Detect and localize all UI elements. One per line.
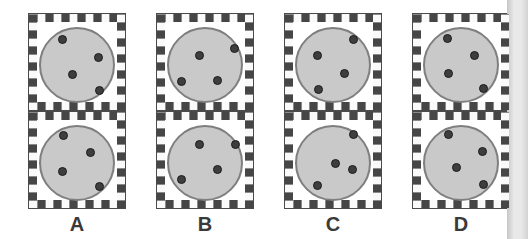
option-label: B xyxy=(198,214,212,234)
page-edge-strip xyxy=(507,0,528,239)
checker-border-bottom xyxy=(157,102,253,110)
dot xyxy=(348,165,357,174)
dot-circle xyxy=(167,27,243,103)
dot xyxy=(313,181,322,190)
dot-circle xyxy=(39,125,115,201)
checker-border-right xyxy=(117,112,125,208)
checker-border-top xyxy=(413,112,509,120)
dot xyxy=(58,167,67,176)
dot xyxy=(349,35,358,44)
dot xyxy=(443,34,452,43)
checker-border-top xyxy=(413,14,509,22)
dot xyxy=(479,180,488,189)
checker-border-right xyxy=(117,14,125,110)
checker-border-left xyxy=(29,112,37,208)
checker-border-top xyxy=(157,112,253,120)
checker-border-top xyxy=(29,14,125,22)
dot xyxy=(95,86,104,95)
dot xyxy=(177,175,186,184)
checker-border-top xyxy=(157,14,253,22)
checker-border-right xyxy=(245,112,253,208)
checker-border-right xyxy=(501,112,509,208)
checker-border-left xyxy=(29,14,37,110)
checker-border-right xyxy=(373,14,381,110)
domino-cell-bottom xyxy=(284,111,382,209)
checker-border-left xyxy=(285,14,293,110)
domino-cell-top xyxy=(28,13,126,111)
dot xyxy=(95,182,104,191)
dot xyxy=(444,69,453,78)
dot xyxy=(314,85,323,94)
dot xyxy=(58,35,67,44)
dot xyxy=(213,165,222,174)
dot xyxy=(331,159,340,168)
option-panel-C[interactable]: C xyxy=(284,13,382,234)
dot-circle xyxy=(295,27,371,103)
checker-border-left xyxy=(413,14,421,110)
dot xyxy=(86,148,95,157)
checker-border-bottom xyxy=(285,102,381,110)
dot xyxy=(195,140,204,149)
checker-border-left xyxy=(157,112,165,208)
checker-border-left xyxy=(413,112,421,208)
dot xyxy=(231,140,240,149)
domino-cell-bottom xyxy=(28,111,126,209)
checker-border-bottom xyxy=(157,200,253,208)
checker-border-bottom xyxy=(285,200,381,208)
dot xyxy=(213,76,222,85)
dot xyxy=(68,70,77,79)
domino-cell-bottom xyxy=(156,111,254,209)
checker-border-left xyxy=(285,112,293,208)
checker-border-bottom xyxy=(29,200,125,208)
dot-circle xyxy=(423,125,499,201)
option-panel-D[interactable]: D xyxy=(412,13,510,234)
checker-border-left xyxy=(157,14,165,110)
dot xyxy=(479,84,488,93)
checker-border-right xyxy=(373,112,381,208)
checker-border-right xyxy=(501,14,509,110)
dot xyxy=(177,77,186,86)
dot xyxy=(313,51,322,60)
checker-border-top xyxy=(29,112,125,120)
option-label: D xyxy=(454,214,468,234)
dot xyxy=(340,69,349,78)
dot xyxy=(230,44,239,53)
dot xyxy=(195,51,204,60)
option-panel-B[interactable]: B xyxy=(156,13,254,234)
figure-canvas: A B xyxy=(0,0,528,239)
checker-border-top xyxy=(285,112,381,120)
option-label: A xyxy=(70,214,84,234)
domino-cell-top xyxy=(412,13,510,111)
dot xyxy=(59,131,68,140)
options-row: A B xyxy=(28,13,510,234)
checker-border-bottom xyxy=(413,200,509,208)
dot xyxy=(349,130,358,139)
dot-circle xyxy=(423,27,499,103)
domino-cell-top xyxy=(284,13,382,111)
checker-border-bottom xyxy=(413,102,509,110)
checker-border-bottom xyxy=(29,102,125,110)
dot xyxy=(452,163,461,172)
domino-cell-top xyxy=(156,13,254,111)
option-panel-A[interactable]: A xyxy=(28,13,126,234)
dot xyxy=(470,51,479,60)
option-label: C xyxy=(326,214,340,234)
checker-border-top xyxy=(285,14,381,22)
dot xyxy=(444,130,453,139)
dot xyxy=(94,53,103,62)
dot-circle xyxy=(167,125,243,201)
checker-border-right xyxy=(245,14,253,110)
dot xyxy=(478,147,487,156)
domino-cell-bottom xyxy=(412,111,510,209)
